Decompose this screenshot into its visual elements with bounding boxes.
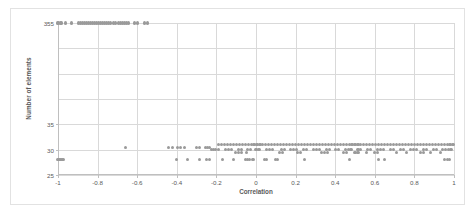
x-tick-mark-5 [256, 175, 257, 178]
data-point [230, 148, 233, 151]
gridline-vertical-7 [335, 23, 336, 175]
y-axis-line [58, 23, 59, 175]
data-point [376, 151, 379, 154]
x-tick-label-2: -0.6 [132, 179, 143, 186]
y-tick-label-1: 35 [47, 121, 54, 128]
x-tick-label-5: 0 [254, 179, 257, 186]
data-point [429, 151, 432, 154]
x-tick-label-1: -0.8 [92, 179, 103, 186]
data-point [448, 158, 451, 161]
data-point [439, 151, 442, 154]
data-point [217, 148, 220, 151]
data-point [383, 158, 386, 161]
gridline-vertical-4 [216, 23, 217, 175]
data-point [422, 151, 425, 154]
data-point [337, 148, 340, 151]
data-point [245, 151, 248, 154]
x-tick-mark-10 [454, 175, 455, 178]
data-point [377, 158, 380, 161]
x-tick-label-10: 1 [452, 179, 455, 186]
y-tick-mark-1 [56, 124, 59, 125]
gridline-vertical-2 [137, 23, 138, 175]
data-point [303, 158, 306, 161]
data-point [70, 21, 73, 24]
data-point [345, 151, 348, 154]
data-point [382, 148, 385, 151]
x-tick-mark-2 [137, 175, 138, 178]
data-point [299, 151, 302, 154]
data-point [232, 158, 235, 161]
gridline-vertical-5 [256, 23, 257, 175]
x-tick-mark-9 [414, 175, 415, 178]
data-point [369, 148, 372, 151]
data-point [208, 158, 211, 161]
y-tick-label-2: 30 [47, 146, 54, 153]
data-point [248, 158, 251, 161]
data-point [451, 143, 454, 146]
x-tick-mark-8 [375, 175, 376, 178]
data-point [198, 146, 201, 149]
data-point [221, 158, 224, 161]
chart-container: Number of elements 355353025 -1-0.8-0.6-… [10, 8, 465, 205]
data-point [305, 148, 308, 151]
data-point [348, 158, 351, 161]
data-point [198, 158, 201, 161]
y-axis-title: Number of elements [25, 34, 32, 144]
data-point [415, 148, 418, 151]
data-point [251, 158, 254, 161]
x-axis-title: Correlation [58, 188, 454, 195]
x-tick-mark-1 [98, 175, 99, 178]
x-tick-label-3: -0.4 [171, 179, 182, 186]
data-point [183, 146, 186, 149]
data-point [59, 21, 62, 24]
data-point [356, 151, 359, 154]
x-tick-mark-7 [335, 175, 336, 178]
x-tick-mark-3 [177, 175, 178, 178]
y-tick-mark-2 [56, 150, 59, 151]
data-point [257, 148, 260, 151]
data-point [64, 21, 67, 24]
x-tick-label-9: 0.8 [410, 179, 419, 186]
data-point [175, 158, 178, 161]
x-tick-label-0: -1 [55, 179, 61, 186]
data-point [167, 146, 170, 149]
data-point [425, 148, 428, 151]
data-point [435, 148, 438, 151]
data-point [449, 148, 452, 151]
data-point [326, 151, 329, 154]
data-point [186, 158, 189, 161]
data-point [249, 148, 252, 151]
data-point [276, 158, 279, 161]
data-point [395, 151, 398, 154]
y-tick-label-0: 355 [44, 20, 54, 27]
x-tick-label-8: 0.6 [370, 179, 379, 186]
data-point [171, 146, 174, 149]
gridline-vertical-3 [177, 23, 178, 175]
data-point [349, 148, 352, 151]
gridline-vertical-1 [98, 23, 99, 175]
gridline-vertical-9 [414, 23, 415, 175]
plot-area: 355353025 -1-0.8-0.6-0.4-0.200.20.40.60.… [58, 23, 454, 175]
data-point [281, 151, 284, 154]
x-tick-mark-4 [216, 175, 217, 178]
data-point [365, 151, 368, 154]
data-point [62, 158, 65, 161]
data-point [136, 21, 139, 24]
x-tick-mark-6 [296, 175, 297, 178]
gridline-vertical-10 [454, 23, 455, 175]
data-point [271, 148, 274, 151]
x-tick-label-4: -0.2 [211, 179, 222, 186]
data-point [240, 151, 243, 154]
data-point [127, 21, 130, 24]
x-tick-label-7: 0.4 [331, 179, 340, 186]
data-point [265, 158, 268, 161]
x-tick-mark-0 [58, 175, 59, 178]
y-tick-label-3: 25 [47, 172, 54, 179]
x-tick-label-6: 0.2 [291, 179, 300, 186]
data-point [124, 146, 127, 149]
data-point [405, 151, 408, 154]
data-point [146, 21, 149, 24]
data-point [179, 146, 182, 149]
